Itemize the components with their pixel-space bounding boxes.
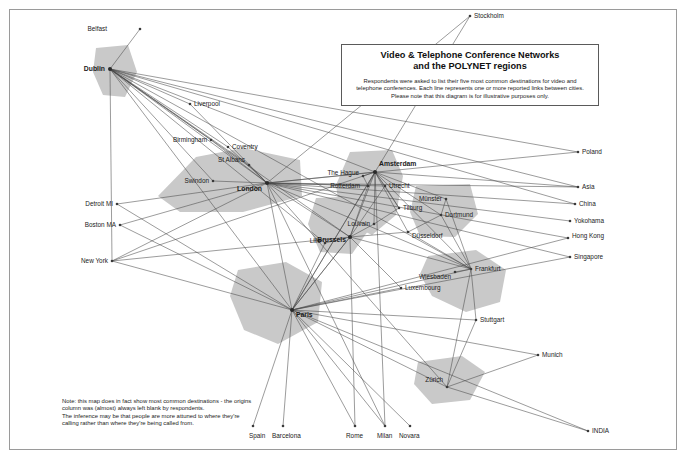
city-node-barcelona[interactable] [282,425,285,428]
city-node-brussels[interactable] [348,235,352,239]
title-description: Respondents were asked to list their fiv… [351,78,589,101]
city-node-birmingham[interactable] [210,139,213,142]
city-label-poland: Poland [582,148,602,155]
city-node-london[interactable] [265,181,269,185]
city-label-louvain: Louvain [348,220,371,227]
city-node-amsterdam[interactable] [373,170,377,174]
link-paris-india [292,310,588,431]
link-paris-zurich [292,310,447,387]
city-label-paris: Paris [296,311,313,318]
city-node-spain[interactable] [252,425,255,428]
city-label-yokohama: Yokohama [574,217,604,224]
city-label-zurich: Zürich [425,376,443,383]
city-node-swindon[interactable] [212,180,215,183]
city-node-china[interactable] [574,203,577,206]
city-label-luxembourg: Luxembourg [405,284,441,292]
link-paris-detroit [117,204,292,310]
city-node-detroit[interactable] [116,203,119,206]
city-node-munster[interactable] [445,198,448,201]
link-paris-milan [292,310,385,426]
city-label-amsterdam: Amsterdam [379,160,416,167]
city-label-china: China [579,200,596,207]
city-node-stuttgart[interactable] [475,319,478,322]
city-label-liverpool: Liverpool [194,100,220,108]
city-label-munich: Munich [542,351,563,358]
city-label-munster: Münster [419,195,443,202]
city-label-birmingham: Birmingham [173,136,207,144]
city-label-belfast: Belfast [87,25,107,32]
city-node-thehague[interactable] [362,175,365,178]
city-node-india[interactable] [587,430,590,433]
city-label-tilburg: Tilburg [403,204,423,212]
city-label-frankfurt: Frankfurt [475,265,501,272]
title-line-2: and the POLYNET regions [413,61,527,71]
city-node-munich[interactable] [537,354,540,357]
link-zurich-india [447,387,588,431]
city-node-stalbans[interactable] [248,164,251,167]
city-node-luxembourg[interactable] [400,287,403,290]
city-label-milan: Milan [377,432,393,439]
city-label-rome: Rome [346,432,363,439]
link-paris-novara [292,310,410,426]
city-node-coventry[interactable] [227,146,230,149]
city-node-stockholm[interactable] [469,15,472,18]
city-node-rotterdam[interactable] [367,185,370,188]
city-node-asia[interactable] [577,186,580,189]
city-label-stuttgart: Stuttgart [480,316,504,324]
city-node-belfast[interactable] [139,28,142,31]
city-label-spain: Spain [249,432,266,440]
city-label-india: INDIA [592,427,610,434]
city-label-boston: Boston MA [85,221,117,228]
link-paris-rome [292,310,355,426]
city-label-asia: Asia [582,183,595,190]
city-node-boston[interactable] [119,224,122,227]
city-node-poland[interactable] [577,151,580,154]
city-label-swindon: Swindon [184,177,209,184]
link-dublin-newyork [110,69,112,261]
city-label-newyork: New York [81,257,109,264]
link-london-poland [267,152,578,183]
city-label-stockholm: Stockholm [474,12,504,19]
city-label-lille: Lille [310,237,322,244]
city-label-coventry: Coventry [232,143,258,151]
city-node-yokohama[interactable] [569,220,572,223]
title-box: Video & Telephone Conference Networks an… [341,44,599,106]
city-label-thehague: The Hague [327,169,359,177]
city-node-dublin[interactable] [108,67,112,71]
region-frankfurt-region [420,250,506,312]
city-node-milan[interactable] [384,425,387,428]
city-node-singapore[interactable] [569,256,572,259]
city-node-frankfurt[interactable] [470,268,473,271]
city-node-louvain[interactable] [373,223,376,226]
city-label-dublin: Dublin [84,65,105,72]
city-label-dortmund: Dortmund [445,211,474,218]
city-label-singapore: Singapore [574,253,604,261]
city-node-zurich[interactable] [446,386,449,389]
city-node-liverpool[interactable] [189,103,192,106]
city-label-novara: Novara [399,432,420,439]
city-node-dusseldorf[interactable] [407,231,410,234]
diagram-canvas: BelfastDublinLiverpoolBirminghamCoventry… [0,0,687,460]
link-brussels-luxembourg [350,237,401,288]
city-node-dortmund[interactable] [440,214,443,217]
city-node-wiesbaden[interactable] [454,271,457,274]
city-node-novara[interactable] [409,425,412,428]
footnote: Note: this map does in fact show most co… [62,398,252,428]
city-node-tilburg[interactable] [398,207,401,210]
city-label-hongkong: Hong Kong [572,232,604,240]
city-label-london: London [237,185,262,192]
city-node-utrecht[interactable] [384,185,387,188]
title-heading: Video & Telephone Conference Networks an… [351,50,589,73]
region-paris-region [230,262,322,344]
city-label-brussels: Brussels [317,236,346,243]
link-brussels-rome [350,237,355,426]
link-dublin-swindon [110,69,213,181]
city-node-newyork[interactable] [111,260,114,263]
city-node-rome[interactable] [354,425,357,428]
city-node-hongkong[interactable] [567,237,570,240]
city-label-wiesbaden: Wiesbaden [419,273,451,280]
city-label-detroit: Detroit MI [85,200,113,207]
city-label-dusseldorf: Düsseldorf [412,232,443,239]
city-label-stalbans: St Albans [218,156,245,163]
city-node-paris[interactable] [290,308,294,312]
